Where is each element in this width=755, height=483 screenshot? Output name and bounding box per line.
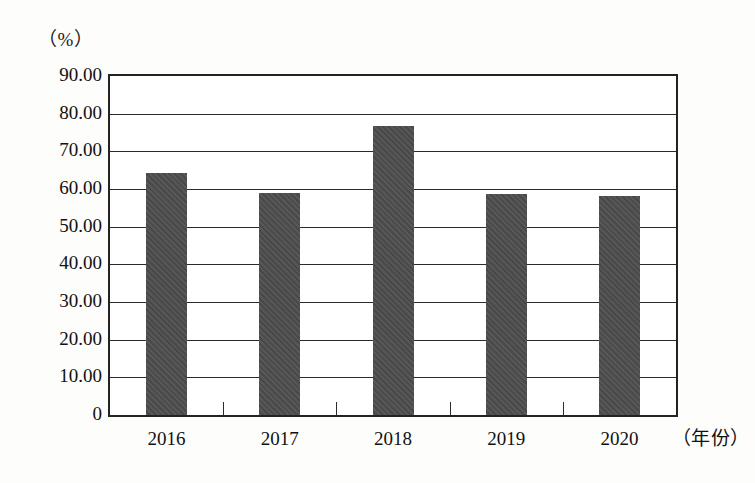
x-tick-label-2018: 2018: [336, 428, 449, 450]
bar-2020: [599, 196, 640, 415]
y-tick-label: 40.00: [20, 253, 102, 272]
x-axis-title: （年份）: [672, 428, 749, 450]
x-tick-label-2019: 2019: [450, 428, 563, 450]
y-tick-label: 80.00: [20, 103, 102, 122]
x-axis-tick: [223, 402, 224, 415]
x-axis-ticks: [110, 395, 676, 415]
y-axis-unit-label: （%）: [38, 30, 93, 50]
bar-2016: [146, 173, 187, 415]
y-tick-label: 20.00: [20, 329, 102, 348]
y-tick-label: 60.00: [20, 178, 102, 197]
bar-2018: [373, 126, 414, 415]
x-tick-label-2016: 2016: [110, 428, 223, 450]
bar-2017: [259, 193, 300, 415]
x-tick-label-2020: 2020: [563, 428, 676, 450]
y-tick-label: 90.00: [20, 65, 102, 84]
bars-layer: [110, 76, 676, 415]
y-tick-label: 30.00: [20, 291, 102, 310]
y-axis-tick-labels: 010.0020.0030.0040.0050.0060.0070.0080.0…: [20, 74, 102, 417]
y-tick-label: 70.00: [20, 140, 102, 159]
x-axis-tick-labels: 20162017201820192020: [110, 428, 676, 462]
x-axis-tick: [450, 402, 451, 415]
bar-2019: [486, 194, 527, 415]
bar-chart-figure: （%） 010.0020.0030.0040.0050.0060.0070.00…: [0, 0, 755, 483]
y-tick-label: 10.00: [20, 366, 102, 385]
y-tick-label: 50.00: [20, 216, 102, 235]
y-tick-label: 0: [20, 404, 102, 423]
x-tick-label-2017: 2017: [223, 428, 336, 450]
x-axis-tick: [336, 402, 337, 415]
x-axis-tick: [563, 402, 564, 415]
